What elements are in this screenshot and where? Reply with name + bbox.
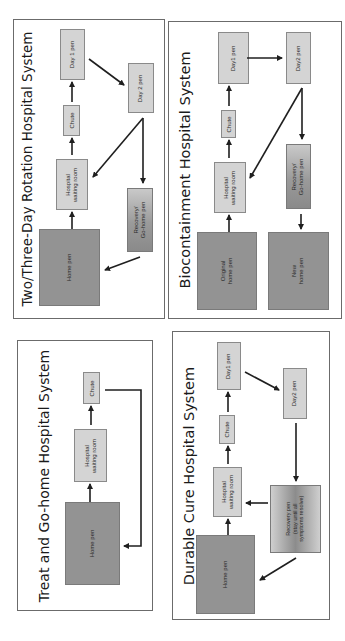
box-day2-pen: Day2 pen [283,368,307,419]
box-recovery-pen: Recovery pen (stay until all symptoms re… [270,485,321,553]
box-hospital-waiting-room: Hospital waiting room [214,162,246,213]
box-home-pen: Home pen [196,535,255,614]
box-home-pen: Home pen [65,502,120,585]
panel-title-treat-and-go-home: Treat and Go-home Hospital System [34,340,54,611]
box-hospital-waiting-room: Hospital waiting room [213,467,242,517]
box-chute: Chute [63,105,80,136]
panel-title-biocontainment: Biocontainment Hospital System [174,21,196,319]
box-day2-pen: Day2 pen [286,32,311,84]
box-day1-pen: Day1 pen [217,342,241,390]
box-hospital-waiting-room: Hospital waiting room [74,429,107,482]
box-hospital-waiting-room: Hospital waiting room [56,159,88,210]
box-day1-pen: Day 1 pen [60,29,85,80]
box-chute: Chute [221,110,236,138]
box-new-home-pen: New home pen [268,232,329,310]
box-chute: Chute [219,415,235,444]
box-original-home-pen: Original home pen [197,232,257,310]
box-day2-pen: Day 2 pen [128,63,154,113]
box-chute: Chute [83,372,100,404]
box-recovery-go-home-pen: Recovery/ Go-home pen [127,188,153,252]
box-day1-pen: Day1 pen [218,32,249,84]
box-home-pen: Home pen [39,229,100,306]
box-recovery-go-home-pen: Recovery/ Go-home pen [286,144,311,209]
panel-title-two-three-day: Two/Three-Day Rotation Hospital System [17,19,37,319]
